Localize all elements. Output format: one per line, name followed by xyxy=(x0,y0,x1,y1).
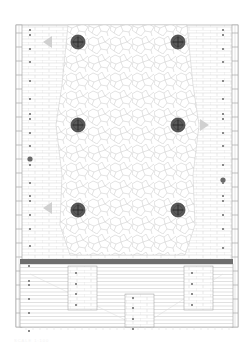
post-marker xyxy=(75,283,77,285)
post-marker xyxy=(29,245,31,247)
post-marker xyxy=(222,61,224,63)
post-marker xyxy=(75,293,77,295)
post-marker xyxy=(29,34,31,36)
post-marker xyxy=(29,48,31,50)
post-marker xyxy=(29,113,31,115)
post-marker xyxy=(222,164,224,166)
medallion-icon xyxy=(71,118,85,132)
post-marker xyxy=(29,228,31,230)
post-marker xyxy=(222,145,224,147)
light-fixture-marker xyxy=(220,177,225,182)
post-marker xyxy=(29,214,31,216)
post-marker xyxy=(28,330,30,332)
dark-divider-band xyxy=(20,259,233,264)
post-marker xyxy=(75,272,77,274)
post-marker xyxy=(222,34,224,36)
post-marker xyxy=(28,280,30,282)
post-marker xyxy=(29,195,31,197)
post-marker xyxy=(28,312,30,314)
post-marker xyxy=(222,48,224,50)
post-marker xyxy=(191,283,193,285)
drawing-caption: SCALE 1:100 xyxy=(14,338,114,344)
post-marker xyxy=(28,284,30,286)
post-marker xyxy=(222,247,224,249)
post-marker xyxy=(191,272,193,274)
post-marker xyxy=(222,200,224,202)
post-marker xyxy=(29,118,31,120)
post-marker xyxy=(222,118,224,120)
post-marker xyxy=(222,195,224,197)
post-marker xyxy=(132,318,134,320)
medallion-icon xyxy=(71,35,85,49)
post-marker xyxy=(29,145,31,147)
post-marker xyxy=(29,200,31,202)
post-marker xyxy=(222,29,224,31)
post-marker xyxy=(29,61,31,63)
divider-band xyxy=(20,259,233,264)
post-marker xyxy=(222,132,224,134)
post-marker xyxy=(29,164,31,166)
lower-decking-area xyxy=(20,264,233,332)
post-marker xyxy=(132,328,134,330)
light-fixture-marker xyxy=(27,156,32,161)
medallion-icon xyxy=(171,203,185,217)
post-marker xyxy=(132,307,134,309)
post-marker xyxy=(29,98,31,100)
post-marker xyxy=(222,113,224,115)
planter-panel xyxy=(68,266,97,310)
post-marker xyxy=(222,214,224,216)
floor-plan-drawing xyxy=(0,0,250,352)
post-marker xyxy=(222,80,224,82)
post-marker xyxy=(75,304,77,306)
post-marker xyxy=(191,304,193,306)
post-marker xyxy=(222,228,224,230)
medallion-icon xyxy=(71,203,85,217)
medallion-icon xyxy=(171,35,185,49)
post-marker xyxy=(28,265,30,267)
post-marker xyxy=(132,297,134,299)
post-marker xyxy=(191,293,193,295)
post-marker xyxy=(29,132,31,134)
post-marker xyxy=(28,298,30,300)
post-marker xyxy=(29,80,31,82)
planter-panel xyxy=(184,266,213,310)
post-marker xyxy=(222,98,224,100)
central-stone-paving xyxy=(56,25,199,255)
post-marker xyxy=(29,182,31,184)
stone-paving-area xyxy=(56,25,199,255)
post-marker xyxy=(29,29,31,31)
medallion-icon xyxy=(171,118,185,132)
planter-panel xyxy=(125,294,154,327)
